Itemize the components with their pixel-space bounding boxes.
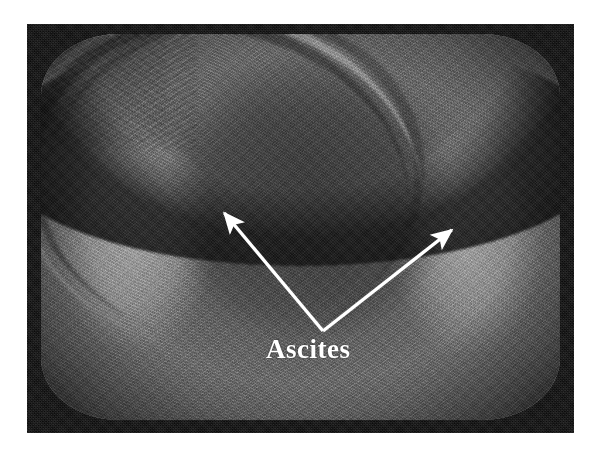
ascites-label: Ascites bbox=[266, 334, 350, 365]
page-root: Ascites bbox=[0, 0, 601, 458]
ultrasound-photograph bbox=[27, 24, 574, 433]
